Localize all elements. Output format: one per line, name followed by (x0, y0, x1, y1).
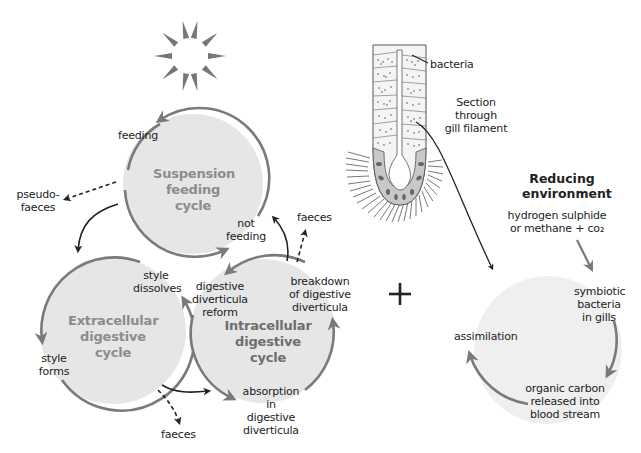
arrow-faeces-intracellular (297, 232, 305, 262)
arrow-pseudofaeces (66, 182, 116, 199)
faeces-top-label: faeces (297, 211, 332, 224)
assimilation-label: assimilation (454, 330, 518, 343)
pseudofaeces-label: pseudo- faeces (16, 188, 60, 214)
extracellular-cycle-title: Extracellular digestive cycle (68, 313, 158, 361)
organic-carbon-label: organic carbon released into blood strea… (520, 382, 610, 421)
sun-icon (154, 20, 226, 92)
plus-sign (389, 283, 411, 305)
absorption-label: absorption in digestive diverticula (241, 385, 301, 437)
section-through-gill-label: Section through gill filament (434, 96, 518, 135)
style-forms-label: style forms (37, 352, 71, 378)
symbiotic-bacteria-label: symbiotic bacteria in gills (574, 285, 624, 324)
intracellular-cycle-title: Intracellular digestive cycle (223, 318, 313, 366)
diverticula-reform-label: digestive diverticula reform (190, 280, 250, 319)
bacteria-label: bacteria (430, 58, 474, 71)
feeding-label: feeding (118, 129, 158, 142)
breakdown-diverticula-label: breakdown of digestive diverticula (289, 275, 351, 314)
style-dissolves-label: style dissolves (133, 269, 179, 295)
suspension-cycle-title: Suspension feeding cycle (153, 166, 233, 214)
arrow-suspension-to-extracellular (78, 204, 118, 250)
faeces-bottom-label: faeces (161, 428, 196, 441)
arrow-reducing-input (577, 240, 591, 268)
reducing-environment-header: Reducing environment (522, 171, 602, 201)
arrow-gill-to-symbiotic (416, 122, 492, 268)
arrow-extracellular-to-intracellular (162, 385, 208, 392)
not-feeding-label: not feeding (226, 217, 266, 243)
input-chemicals-label: hydrogen sulphide or methane + co₂ (502, 209, 612, 235)
